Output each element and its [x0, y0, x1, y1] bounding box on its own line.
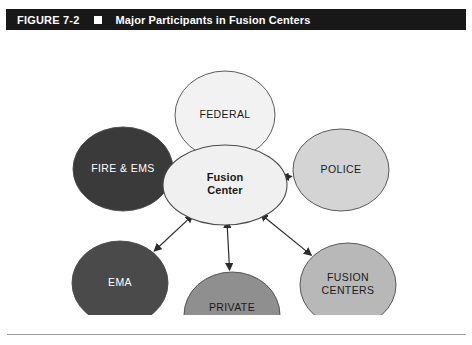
connector-ema-arrow [154, 219, 188, 251]
node-fire-ems[interactable]: FIRE & EMS [73, 127, 173, 211]
node-private-sector-label: SECTOR [209, 314, 255, 315]
figure-bottom-rule [7, 334, 466, 335]
figure-frame: FIGURE 7-2 Major Participants in Fusion … [0, 0, 472, 345]
node-fusion-centers-label: FUSION [327, 271, 369, 283]
nodes-group: FEDERALPOLICEFUSIONCENTERSPRIVATESECTORE… [72, 71, 396, 315]
node-police[interactable]: POLICE [293, 129, 389, 211]
figure-number: FIGURE 7-2 [17, 14, 80, 26]
node-federal-label: FEDERAL [199, 108, 250, 120]
diagram-canvas: FEDERALPOLICEFUSIONCENTERSPRIVATESECTORE… [0, 30, 472, 315]
node-fusion-center-label: Center [207, 184, 243, 196]
node-ema[interactable]: EMA [72, 241, 168, 315]
connector-fusion-centers-arrow [265, 218, 311, 255]
figure-title-bar: FIGURE 7-2 Major Participants in Fusion … [6, 9, 466, 30]
node-private-sector[interactable]: PRIVATESECTOR [184, 272, 280, 315]
node-fusion-center-label: Fusion [207, 171, 244, 183]
square-bullet-icon [94, 16, 102, 24]
node-fusion-centers-label: CENTERS [322, 284, 375, 296]
fusion-center-diagram: FEDERALPOLICEFUSIONCENTERSPRIVATESECTORE… [0, 30, 472, 315]
node-fusion-centers[interactable]: FUSIONCENTERS [300, 243, 396, 315]
node-ema-label: EMA [108, 276, 132, 288]
figure-caption: Major Participants in Fusion Centers [116, 14, 311, 26]
node-fusion-center[interactable]: FusionCenter [163, 145, 287, 225]
connector-private-sector-arrow [227, 227, 229, 270]
node-private-sector-label: PRIVATE [209, 301, 255, 313]
node-police-label: POLICE [321, 163, 362, 175]
node-fire-ems-label: FIRE & EMS [91, 162, 155, 174]
